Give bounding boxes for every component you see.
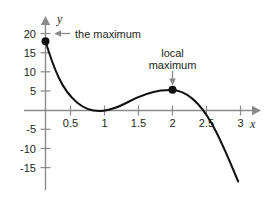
y-axis-arrowhead xyxy=(41,16,50,25)
the-maximum-annotation-arrow xyxy=(55,30,71,37)
x-tick-label-1: 1 xyxy=(101,117,107,129)
y-tick-label-15: 15 xyxy=(24,47,36,59)
x-tick-label-2: 2 xyxy=(169,117,175,129)
local-maximum-label-line2: maximum xyxy=(149,59,197,71)
x-tick-label-1.5: 1.5 xyxy=(131,117,146,129)
x-axis-label: x xyxy=(249,117,256,131)
y-tick-label-10: 10 xyxy=(24,66,36,78)
cubic-function-plot: 0.5 1 1.5 2 2.5 3 20 15 10 5 -5 -10 -15 … xyxy=(0,0,271,197)
y-tick-label--5: -5 xyxy=(26,123,36,135)
maximum-point-dot xyxy=(42,37,50,45)
the-maximum-label: the maximum xyxy=(75,28,141,40)
y-tick-label--10: -10 xyxy=(20,143,36,155)
x-axis-arrowhead xyxy=(252,106,261,115)
x-axis xyxy=(24,106,261,116)
y-tick-label--15: -15 xyxy=(20,162,36,174)
y-axis-label: y xyxy=(56,12,63,26)
chart-figure: 0.5 1 1.5 2 2.5 3 20 15 10 5 -5 -10 -15 … xyxy=(0,0,271,197)
function-curve xyxy=(46,41,239,181)
x-tick-label-0.5: 0.5 xyxy=(63,117,78,129)
y-tick-label-5: 5 xyxy=(30,85,36,97)
local-maximum-annotation-arrow xyxy=(169,71,176,86)
local-maximum-label-line1: local xyxy=(161,47,184,59)
x-tick-label-3: 3 xyxy=(237,117,243,129)
y-tick-label-20: 20 xyxy=(24,28,36,40)
local-maximum-point-dot xyxy=(169,86,177,94)
